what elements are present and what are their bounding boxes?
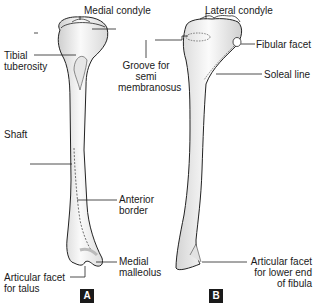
label-articular-facet-talus-line1: Articular facet — [4, 272, 65, 283]
label-articular-facet-talus-line2: for talus — [4, 283, 40, 294]
label-tibial-tuberosity-line2: tuberosity — [4, 61, 47, 72]
label-articular-facet-fibula-line3: of fibula — [230, 278, 312, 289]
label-lateral-condyle: Lateral condyle — [205, 5, 273, 16]
label-soleal-line: Soleal line — [264, 69, 310, 80]
label-groove-line1: Groove for — [120, 60, 172, 71]
label-medial-condyle: Medial condyle — [84, 5, 151, 16]
panel-badge-a: A — [80, 289, 94, 303]
label-articular-facet-fibula-line2: for lower end — [230, 267, 312, 278]
label-tibial-tuberosity-line1: Tibial — [4, 50, 28, 61]
label-groove-line2: semi — [120, 71, 172, 82]
label-anterior-border-line2: border — [119, 205, 148, 216]
label-shaft: Shaft — [4, 129, 27, 140]
label-articular-facet-fibula-line1: Articular facet — [230, 256, 312, 267]
tibia-anterior-view — [58, 17, 108, 266]
panel-badge-b: B — [209, 289, 223, 303]
label-anterior-border-line1: Anterior — [119, 194, 154, 205]
label-fibular-facet: Fibular facet — [256, 39, 311, 50]
tibia-posterior-view — [176, 16, 242, 270]
label-groove-line3: membranosus — [118, 82, 174, 93]
label-medial-malleolus-line2: malleolus — [119, 267, 161, 278]
label-medial-malleolus-line1: Medial — [119, 256, 148, 267]
